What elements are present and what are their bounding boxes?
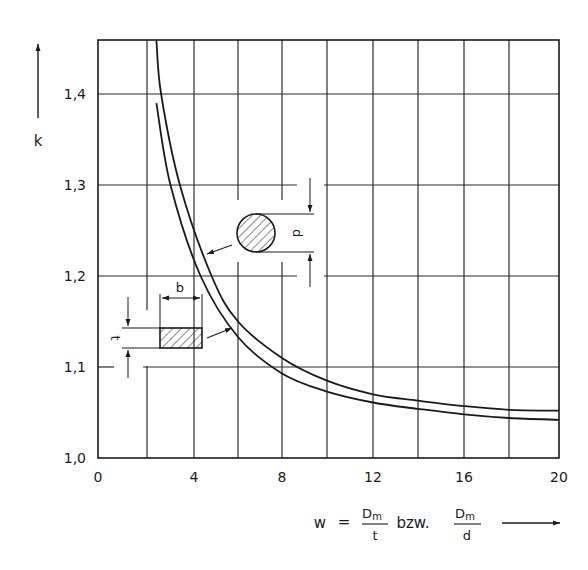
svg-text:Dm: Dm — [362, 506, 382, 522]
x-tick-label: 4 — [190, 469, 199, 485]
y-tick-label: 1,2 — [64, 268, 86, 284]
x-axis-label: w = Dm t bzw. Dm d — [314, 506, 560, 543]
circle-cross-section-figure: d — [207, 178, 314, 287]
curve-rectangular-section — [156, 103, 559, 420]
x-tick-label: 0 — [94, 469, 103, 485]
rectangle-section-icon — [160, 328, 202, 348]
svg-text:t: t — [372, 528, 377, 543]
x-tick-label: 16 — [455, 469, 473, 485]
x-tick-labels: 048121620 — [94, 469, 568, 485]
y-tick-label: 1,4 — [64, 86, 86, 102]
rect-height-label: t — [108, 335, 123, 340]
plot-frame — [98, 40, 559, 458]
circle-pointer-arrow-icon — [207, 245, 232, 254]
grid — [98, 40, 559, 458]
chart: 1,01,11,21,31,4 048121620 k d b t w = Dm… — [0, 0, 588, 570]
x-tick-label: 20 — [550, 469, 568, 485]
rect-pointer-arrow-icon — [207, 328, 232, 338]
svg-text:Dm: Dm — [455, 506, 475, 522]
rect-width-label: b — [176, 280, 184, 295]
circle-section-icon — [237, 214, 275, 252]
rectangle-cross-section-figure: b t — [108, 280, 233, 378]
svg-text:d: d — [463, 528, 471, 543]
svg-text:w: w — [314, 514, 326, 532]
x-tick-label: 8 — [278, 469, 287, 485]
svg-text:=: = — [338, 513, 351, 531]
y-tick-label: 1,1 — [64, 359, 86, 375]
y-tick-label: 1,0 — [64, 450, 86, 466]
y-tick-labels: 1,01,11,21,31,4 — [64, 86, 86, 466]
y-axis-label: k — [34, 132, 43, 150]
y-tick-label: 1,3 — [64, 177, 86, 193]
curve-circular-section — [156, 40, 559, 411]
svg-text:bzw.: bzw. — [396, 514, 429, 532]
x-tick-label: 12 — [364, 469, 382, 485]
circle-dim-label: d — [290, 229, 305, 237]
